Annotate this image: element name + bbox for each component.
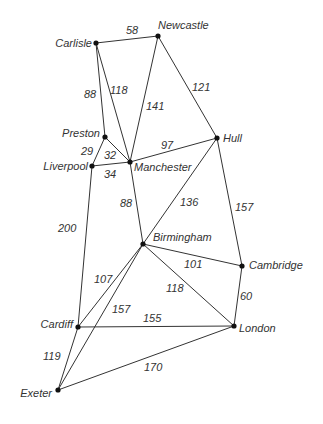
- node-dot-birmingham: [140, 241, 145, 246]
- network-graph: 5888118141121293234978813615720010111810…: [0, 0, 323, 424]
- node-dot-exeter: [55, 387, 60, 392]
- node-dot-preston: [102, 134, 107, 139]
- edge-weight: 170: [144, 361, 163, 373]
- node-label-london: London: [239, 322, 276, 334]
- node-label-birmingham: Birmingham: [153, 231, 212, 243]
- node-dot-cardiff: [75, 324, 80, 329]
- edge-weight: 119: [43, 350, 61, 362]
- edge-weight: 58: [126, 24, 139, 36]
- edge-weight: 60: [240, 290, 253, 302]
- edge-birmingham-cardiff: [78, 244, 143, 327]
- edge-weight: 32: [104, 149, 116, 161]
- node-label-carlisle: Carlisle: [55, 37, 92, 49]
- node-dot-london: [231, 323, 236, 328]
- edge-liverpool-cardiff: [78, 166, 92, 327]
- edge-weight: 97: [161, 139, 174, 151]
- node-dot-manchester: [127, 159, 132, 164]
- edge-manchester-hull: [130, 138, 217, 162]
- edge-weight: 157: [112, 303, 131, 315]
- edge-hull-birmingham: [143, 138, 217, 244]
- node-label-preston: Preston: [62, 127, 100, 139]
- edge-weight: 136: [180, 196, 199, 208]
- node-dot-carlisle: [93, 40, 98, 45]
- edge-weight: 101: [184, 258, 202, 270]
- edge-birmingham-exeter: [58, 244, 143, 390]
- edge-weight: 29: [80, 145, 93, 157]
- edge-weight: 200: [57, 222, 77, 234]
- node-dot-cambridge: [239, 263, 244, 268]
- node-label-cardiff: Cardiff: [41, 318, 74, 330]
- edge-exeter-london: [58, 326, 234, 390]
- edge-carlisle-manchester: [96, 43, 130, 162]
- edge-weight: 88: [84, 88, 97, 100]
- edge-weight: 157: [235, 201, 254, 213]
- edge-weight: 121: [192, 81, 210, 93]
- edge-liverpool-manchester: [92, 162, 130, 166]
- node-dot-liverpool: [89, 163, 94, 168]
- node-label-manchester: Manchester: [134, 161, 193, 173]
- node-label-exeter: Exeter: [20, 387, 53, 399]
- edge-weight: 118: [166, 282, 184, 294]
- edge-cardiff-london: [78, 326, 234, 327]
- node-label-hull: Hull: [223, 132, 243, 144]
- edge-carlisle-newcastle: [96, 36, 158, 43]
- nodes-layer: CarlisleNewcastlePrestonLiverpoolManches…: [20, 19, 303, 399]
- edge-newcastle-manchester: [130, 36, 158, 162]
- edge-weight: 155: [143, 312, 162, 324]
- edge-weight: 107: [94, 273, 113, 285]
- edge-weight: 118: [110, 84, 128, 96]
- edge-weight: 34: [104, 168, 116, 180]
- edge-weight: 88: [120, 197, 133, 209]
- edge-cardiff-exeter: [58, 327, 78, 390]
- node-label-liverpool: Liverpool: [43, 160, 88, 172]
- node-dot-newcastle: [155, 33, 160, 38]
- node-label-newcastle: Newcastle: [158, 19, 209, 31]
- node-label-cambridge: Cambridge: [249, 259, 303, 271]
- edge-weight: 141: [146, 100, 164, 112]
- node-dot-hull: [214, 135, 219, 140]
